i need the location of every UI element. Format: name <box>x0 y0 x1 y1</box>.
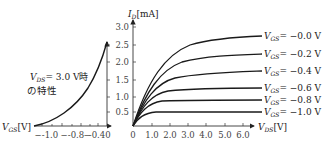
transfer-curve <box>34 42 107 126</box>
output-characteristic-panel: 0.5 1.0 1.5 2.0 2.5 3.0 0 1.0 2.0 3.0 4.… <box>115 9 321 140</box>
vds-tick-label: 5.0 <box>218 130 232 140</box>
vds-axis-label: VDS[V] <box>258 122 287 133</box>
curve-label-vgs-0.0: VGS= −0.0 V <box>264 31 322 42</box>
vds-tick-label: 1.0 <box>145 130 159 140</box>
vds-condition-annotation: VDS= 3.0 V時 <box>30 72 89 83</box>
id-tick-label: 2.5 <box>115 40 129 50</box>
curve-labels: VGS= −0.0 V VGS= −0.2 V VGS= −0.4 V VGS=… <box>264 31 322 118</box>
tick-dash: − <box>60 130 67 140</box>
vds-tick-label: 0 <box>130 130 135 140</box>
vds-tick-label: 6.0 <box>236 130 250 140</box>
id-tick-label: 2.0 <box>115 57 129 67</box>
curve-vgs-0.6 <box>133 88 262 126</box>
vgs-axis-label: VGS[V] <box>2 122 31 133</box>
vds-condition-annotation-line2: の特性 <box>27 85 57 96</box>
transfer-characteristic-panel: -1.0 -0.8 -0.4 0 − − − VGS[V] VDS= 3.0 V… <box>2 42 111 140</box>
vgs-tick-label: -0.4 <box>89 130 105 140</box>
tick-dash: − <box>34 130 41 140</box>
id-tick-label: 1.0 <box>115 92 129 102</box>
vds-tick-label: 4.0 <box>199 130 213 140</box>
curve-label-vgs-0.8: VGS= −0.8 V <box>264 95 322 106</box>
vgs-tick-label: -0.8 <box>68 130 84 140</box>
tick-dash: − <box>83 130 90 140</box>
output-curves <box>133 36 262 126</box>
vds-tick-label: 2.0 <box>163 130 177 140</box>
curve-vgs-0.2 <box>133 54 262 126</box>
id-tick-label: 3.0 <box>115 22 129 32</box>
id-axis-label: ID[mA] <box>127 9 158 20</box>
curve-label-vgs-0.6: VGS= −0.6 V <box>264 83 322 94</box>
fet-characteristics-chart: -1.0 -0.8 -0.4 0 − − − VGS[V] VDS= 3.0 V… <box>0 0 327 150</box>
id-tick-label: 1.5 <box>115 75 129 85</box>
id-tick-label: 0.5 <box>115 107 129 117</box>
curve-label-vgs-0.4: VGS= −0.4 V <box>264 66 322 77</box>
vgs-tick-label: -1.0 <box>42 130 58 140</box>
vds-tick-label: 3.0 <box>181 130 195 140</box>
vgs-tick-label: 0 <box>105 130 110 140</box>
curve-label-vgs-0.2: VGS= −0.2 V <box>264 49 322 60</box>
curve-label-vgs-1.0: VGS= −1.0 V <box>264 107 322 118</box>
